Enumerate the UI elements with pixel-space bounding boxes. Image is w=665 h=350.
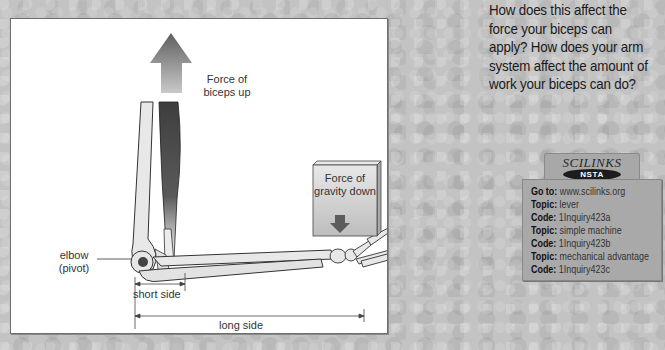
- lever-diagram-panel: Force of biceps up Force of gravity down…: [10, 18, 388, 334]
- scilinks-entry-code: Code: 1Inquiry423c: [531, 263, 640, 276]
- entry-value: 1Inquiry423c: [559, 263, 610, 275]
- biceps-force-arrow-icon: [150, 33, 192, 93]
- elbow-pivot-label: elbow (pivot): [51, 249, 97, 275]
- long-side-label: long side: [211, 319, 271, 332]
- elbow-label-line1: elbow: [51, 249, 97, 262]
- scilinks-entry-topic: Topic: simple machine: [531, 224, 640, 237]
- entry-key: Topic:: [531, 198, 557, 210]
- elbow-pivot-icon: [138, 257, 148, 267]
- entry-value: 1Inquiry423b: [559, 237, 611, 249]
- biceps-force-label-line2: biceps up: [195, 86, 259, 99]
- entry-key: Topic:: [531, 250, 557, 262]
- elbow-label-line2: (pivot): [51, 262, 97, 275]
- entry-key: Code:: [531, 237, 556, 249]
- scilinks-entry-topic: Topic: mechanical advantage: [531, 250, 640, 263]
- entry-key: Topic:: [531, 224, 557, 236]
- humerus-bone: [132, 102, 156, 271]
- scilinks-entry-code: Code: 1Inquiry423a: [531, 211, 640, 224]
- entry-value: 1Inquiry423a: [559, 211, 611, 223]
- entry-key: Code:: [531, 263, 556, 275]
- scilinks-entry-code: Code: 1Inquiry423b: [531, 237, 640, 250]
- entry-value: lever: [560, 198, 579, 210]
- gravity-force-label-line2: gravity down: [309, 185, 381, 198]
- scilinks-entry-topic: Topic: lever: [531, 198, 640, 211]
- scilinks-card: Go to: www.scilinks.org Topic: lever Cod…: [522, 179, 662, 281]
- question-text: How does this affect the force your bice…: [489, 1, 651, 94]
- scilinks-entry-list: Go to: www.scilinks.org Topic: lever Cod…: [531, 185, 640, 276]
- scilinks-entry-goto: Go to: www.scilinks.org: [531, 185, 640, 198]
- entry-key: Code:: [531, 211, 556, 223]
- gravity-force-label-line1: Force of: [309, 172, 381, 185]
- short-side-label: short side: [133, 288, 189, 301]
- scilinks-url-link[interactable]: www.scilinks.org: [560, 185, 625, 197]
- entry-key: Go to:: [531, 185, 557, 197]
- biceps-force-label: Force of biceps up: [195, 73, 259, 99]
- entry-value: mechanical advantage: [560, 250, 649, 262]
- biceps-force-label-line1: Force of: [195, 73, 259, 86]
- scilinks-box: SCILINKS NSTA Go to: www.scilinks.org To…: [522, 153, 662, 281]
- entry-value: simple machine: [560, 224, 622, 236]
- gravity-force-label: Force of gravity down: [309, 172, 381, 198]
- scilinks-logo-tab: SCILINKS NSTA: [544, 153, 640, 180]
